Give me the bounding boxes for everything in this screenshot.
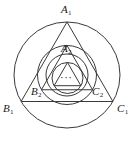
vertex-label-c1: C1 [117, 103, 128, 114]
vertex-label-c2-sub: 2 [100, 91, 104, 99]
vertex-label-a1: A1 [61, 4, 71, 15]
vertex-label-b2-sub: 2 [38, 91, 42, 99]
vertex-label-a2-base: A [61, 42, 68, 54]
vertex-label-c1-base: C [117, 102, 124, 114]
continuation-ellipsis: ··· [60, 72, 73, 83]
vertex-label-b2-base: B [31, 85, 38, 97]
vertex-label-c2: C2 [92, 86, 103, 97]
vertex-label-b1-sub: 1 [10, 108, 14, 116]
vertex-label-b2: B2 [31, 86, 41, 97]
vertex-label-a1-sub: 1 [68, 9, 72, 17]
vertex-label-b1: B1 [3, 103, 13, 114]
vertex-label-a1-base: A [61, 3, 68, 15]
nested-circles-triangles-figure: A1 A2 B1 C1 B2 C2 ··· [0, 0, 134, 142]
vertex-label-c1-sub: 1 [125, 108, 129, 116]
vertex-label-b1-base: B [3, 102, 10, 114]
vertex-label-a2: A2 [61, 43, 71, 54]
vertex-label-c2-base: C [92, 85, 99, 97]
vertex-label-a2-sub: 2 [68, 48, 72, 56]
